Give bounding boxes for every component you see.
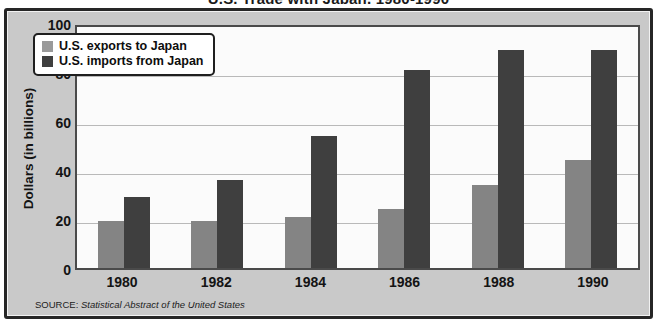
bar-exports[interactable] (378, 209, 404, 268)
bar-imports[interactable] (404, 70, 430, 268)
bar-exports[interactable] (98, 221, 124, 268)
x-axis-labels: 198019821984198619881990 (75, 274, 640, 296)
x-tick-label: 1988 (452, 274, 546, 296)
legend-label: U.S. imports from Japan (59, 54, 203, 69)
source-text: Statistical Abstract of the United State… (81, 299, 245, 310)
source-note: SOURCE: Statistical Abstract of the Unit… (35, 299, 245, 310)
chart-title: U.S. Trade with Japan, 1980-1990 (0, 0, 657, 4)
y-tick-label: 0 (37, 262, 71, 278)
bar-group (451, 27, 545, 268)
bar-imports[interactable] (591, 50, 617, 268)
y-tick-label: 40 (37, 164, 71, 180)
bar-exports[interactable] (472, 185, 498, 268)
chart-legend: U.S. exports to JapanU.S. imports from J… (33, 33, 215, 76)
y-tick-label: 60 (37, 115, 71, 131)
bar-imports[interactable] (311, 136, 337, 268)
legend-label: U.S. exports to Japan (59, 39, 187, 54)
source-label: SOURCE: (35, 299, 78, 310)
x-tick-label: 1990 (546, 274, 640, 296)
legend-item[interactable]: U.S. imports from Japan (42, 54, 203, 69)
bar-group (358, 27, 452, 268)
legend-item[interactable]: U.S. exports to Japan (42, 39, 203, 54)
y-tick-label: 20 (37, 213, 71, 229)
x-tick-label: 1986 (358, 274, 452, 296)
bar-imports[interactable] (217, 180, 243, 268)
chart-panel: Dollars (in billions) 100806040200 19801… (4, 8, 653, 319)
x-tick-label: 1984 (263, 274, 357, 296)
bar-exports[interactable] (285, 217, 311, 268)
x-tick-label: 1980 (75, 274, 169, 296)
bar-imports[interactable] (124, 197, 150, 268)
bar-group (545, 27, 639, 268)
legend-swatch-imports (42, 56, 53, 67)
legend-swatch-exports (42, 41, 53, 52)
bar-exports[interactable] (191, 221, 217, 268)
y-tick-label: 100 (37, 17, 71, 33)
bar-exports[interactable] (565, 160, 591, 268)
x-tick-label: 1982 (169, 274, 263, 296)
chart-figure: U.S. Trade with Japan, 1980-1990 Dollars… (0, 0, 657, 323)
bar-group (264, 27, 358, 268)
bar-imports[interactable] (498, 50, 524, 268)
y-axis-title: Dollars (in billions) (21, 54, 36, 244)
